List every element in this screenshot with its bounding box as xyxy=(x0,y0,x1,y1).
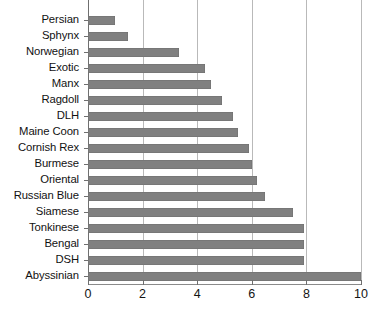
category-tick xyxy=(84,196,88,197)
bar-row xyxy=(88,172,361,188)
category-tick xyxy=(84,164,88,165)
bar xyxy=(88,16,115,25)
value-tick-label: 2 xyxy=(139,288,146,301)
bar xyxy=(88,208,293,217)
value-tick xyxy=(252,280,253,285)
bar xyxy=(88,192,265,201)
category-tick xyxy=(84,244,88,245)
category-label: DLH xyxy=(0,108,84,124)
category-label: Russian Blue xyxy=(0,188,84,204)
category-label: Maine Coon xyxy=(0,124,84,140)
category-tick xyxy=(84,260,88,261)
horizontal-bar-chart: PersianSphynxNorwegianExoticManxRagdollD… xyxy=(0,0,381,314)
bar xyxy=(88,272,361,281)
category-label: Oriental xyxy=(0,172,84,188)
category-label: Persian xyxy=(0,12,84,28)
bar xyxy=(88,176,257,185)
bar-row xyxy=(88,204,361,220)
bar xyxy=(88,64,205,73)
value-tick-label: 0 xyxy=(85,288,92,301)
bar xyxy=(88,112,233,121)
category-tick xyxy=(84,84,88,85)
category-tick xyxy=(84,148,88,149)
category-tick xyxy=(84,180,88,181)
category-label: Cornish Rex xyxy=(0,140,84,156)
value-tick xyxy=(306,280,307,285)
category-label: DSH xyxy=(0,252,84,268)
category-tick xyxy=(84,276,88,277)
category-tick xyxy=(84,36,88,37)
category-label: Burmese xyxy=(0,156,84,172)
category-tick xyxy=(84,132,88,133)
bar-row xyxy=(88,92,361,108)
bar-row xyxy=(88,188,361,204)
category-label: Abyssinian xyxy=(0,268,84,284)
bar-row xyxy=(88,12,361,28)
bar xyxy=(88,160,252,169)
value-tick xyxy=(361,280,362,285)
value-tick-label: 10 xyxy=(354,288,368,301)
category-tick xyxy=(84,212,88,213)
bar xyxy=(88,48,179,57)
category-label: Norwegian xyxy=(0,44,84,60)
bar xyxy=(88,256,304,265)
category-label: Ragdoll xyxy=(0,92,84,108)
bar xyxy=(88,80,211,89)
bar-series xyxy=(88,12,361,284)
gridline xyxy=(361,0,362,284)
bar-row xyxy=(88,268,361,284)
category-tick xyxy=(84,100,88,101)
bar-row xyxy=(88,44,361,60)
value-tick xyxy=(197,280,198,285)
bar-row xyxy=(88,236,361,252)
bar-row xyxy=(88,140,361,156)
bar-row xyxy=(88,156,361,172)
bar-row xyxy=(88,60,361,76)
category-tick xyxy=(84,52,88,53)
bar xyxy=(88,128,238,137)
value-tick-label: 6 xyxy=(248,288,255,301)
category-label: Sphynx xyxy=(0,28,84,44)
category-label: Bengal xyxy=(0,236,84,252)
value-axis: 0246810 xyxy=(88,284,361,314)
axis-line xyxy=(88,284,361,285)
bar xyxy=(88,224,304,233)
bar xyxy=(88,32,128,41)
bar-row xyxy=(88,220,361,236)
category-tick xyxy=(84,116,88,117)
bar-row xyxy=(88,28,361,44)
plot-area xyxy=(88,12,361,284)
bar xyxy=(88,96,222,105)
category-tick xyxy=(84,20,88,21)
value-tick xyxy=(88,280,89,285)
bar xyxy=(88,144,249,153)
category-label: Tonkinese xyxy=(0,220,84,236)
value-tick xyxy=(143,280,144,285)
category-tick xyxy=(84,68,88,69)
value-tick-label: 8 xyxy=(303,288,310,301)
bar-row xyxy=(88,108,361,124)
category-axis: PersianSphynxNorwegianExoticManxRagdollD… xyxy=(0,12,84,284)
category-label: Siamese xyxy=(0,204,84,220)
category-label: Exotic xyxy=(0,60,84,76)
bar-row xyxy=(88,252,361,268)
bar-row xyxy=(88,76,361,92)
bar xyxy=(88,240,304,249)
category-label: Manx xyxy=(0,76,84,92)
bar-row xyxy=(88,124,361,140)
value-tick-label: 4 xyxy=(194,288,201,301)
category-tick xyxy=(84,228,88,229)
